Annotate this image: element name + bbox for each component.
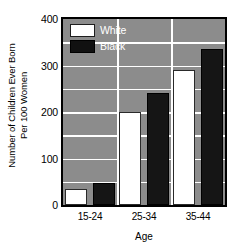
bar-25-34-black (147, 93, 169, 205)
legend-label-black: Black (100, 41, 125, 52)
legend-item-black: Black (70, 40, 126, 53)
bar-35-44-black (201, 49, 223, 205)
legend-swatch-black-icon (70, 40, 95, 53)
x-axis-title: Age (61, 232, 227, 242)
legend-item-white: White (70, 24, 126, 37)
legend: White Black (70, 24, 126, 53)
y-tick-label: 0 (32, 200, 58, 211)
bar-chart-figure: Number of Children Ever Born Per 100 Wom… (0, 0, 242, 252)
bar-15-24-white (65, 189, 87, 205)
y-axis-title: Number of Children Ever Born Per 100 Wom… (0, 0, 34, 210)
y-axis-ticks: 0100200300400 (30, 0, 58, 252)
y-axis-title-line1: Number of Children Ever Born (6, 43, 17, 167)
y-axis-title-line2: Per 100 Women (17, 43, 29, 167)
plot-area: White Black (61, 17, 227, 207)
bar-25-34-white (119, 112, 141, 205)
y-tick-label: 100 (32, 154, 58, 165)
bar-15-24-black (93, 183, 115, 205)
x-tick-label: 15-24 (62, 212, 118, 222)
bar-35-44-white (173, 70, 195, 205)
legend-label-white: White (100, 25, 126, 36)
x-tick-label: 25-34 (116, 212, 172, 222)
x-tick-label: 35-44 (170, 212, 226, 222)
y-tick-label: 200 (32, 107, 58, 118)
y-tick-label: 400 (32, 14, 58, 25)
y-tick-label: 300 (32, 61, 58, 72)
legend-swatch-white-icon (70, 24, 95, 37)
